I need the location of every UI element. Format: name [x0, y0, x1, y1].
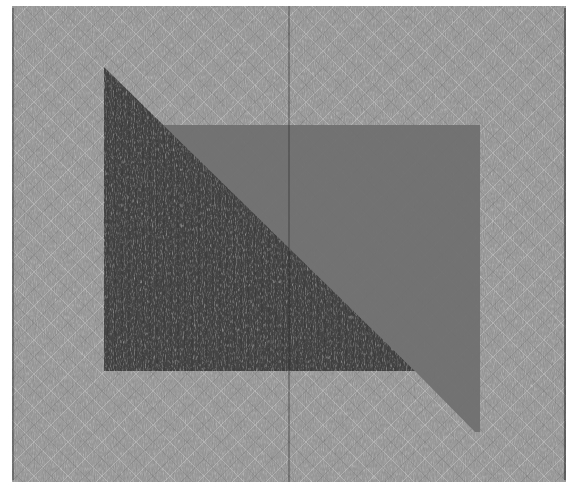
- quilt-photo: [0, 0, 578, 495]
- quilt: [12, 6, 566, 482]
